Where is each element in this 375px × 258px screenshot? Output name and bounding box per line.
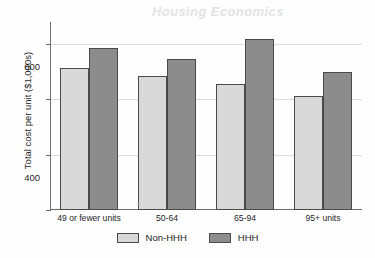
legend-label: HHH (238, 232, 259, 243)
legend-item: HHH (209, 232, 259, 243)
bar-chart-figure: Housing Economics Total cost per unit ($… (0, 0, 375, 258)
legend-swatch-icon (209, 233, 231, 243)
y-axis-tick: 200 (46, 155, 50, 156)
watermark-text: Housing Economics (152, 4, 284, 19)
y-axis-tick: 600 (46, 44, 50, 45)
y-axis-tick: 0 (46, 210, 50, 211)
plot-area: 0200400600 ~ (50, 22, 362, 210)
x-axis-category-label: 49 or fewer units (57, 213, 121, 223)
chart-legend: Non-HHHHHH (0, 232, 375, 243)
bar-non-hhh-0 (60, 68, 89, 210)
bar-non-hhh-3 (294, 96, 323, 210)
legend-item: Non-HHH (117, 232, 187, 243)
y-axis-tick: 400 (46, 99, 50, 100)
y-axis-tick-label: 600 (24, 61, 40, 72)
y-axis-line (50, 22, 51, 211)
bar-hhh-0 (89, 48, 118, 210)
bar-hhh-3 (323, 72, 352, 210)
bar-non-hhh-2 (216, 84, 245, 210)
y-axis-tick-label: 400 (24, 171, 40, 182)
x-axis-category-label: 65-94 (234, 213, 256, 223)
legend-swatch-icon (117, 233, 139, 243)
bar-non-hhh-1 (138, 76, 167, 210)
x-axis-category-label: 95+ units (305, 213, 340, 223)
x-axis-category-label: 50-64 (156, 213, 178, 223)
gridline (51, 44, 362, 45)
bar-hhh-1 (167, 59, 196, 211)
legend-label: Non-HHH (146, 232, 187, 243)
bar-hhh-2 (245, 39, 274, 210)
